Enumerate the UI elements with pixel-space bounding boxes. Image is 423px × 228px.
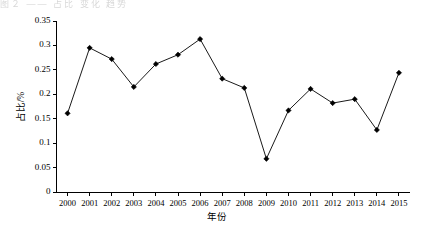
x-tick-label: 2000 [59,198,76,208]
data-point-marker [330,100,335,105]
x-tick-label: 2007 [214,198,231,208]
data-point-marker [65,111,70,116]
y-tick-label: 0.25 [35,64,51,74]
x-tick-label: 2014 [368,198,386,208]
x-axis-title: 年份 [207,211,227,222]
series-line-occupancy [68,39,399,159]
y-tick-label: 0.35 [35,15,51,25]
data-point-marker [220,76,225,81]
data-series-group [65,36,402,161]
y-tick-label: 0.1 [39,137,50,147]
x-tick-label: 2003 [125,198,142,208]
y-axis-tick-labels: 00.050.10.150.20.250.30.35 [35,15,51,196]
x-tick-label: 2005 [170,198,187,208]
x-tick-label: 2015 [390,198,407,208]
y-axis-ticks [53,21,57,192]
x-tick-label: 2008 [236,198,253,208]
data-point-marker [264,156,269,161]
x-tick-label: 2001 [81,198,98,208]
data-point-marker [87,45,92,50]
y-axis-title: 占比/% [15,92,26,123]
y-tick-label: 0.15 [35,113,51,123]
y-axis-group: 00.050.10.150.20.250.30.35 占比/% [15,15,57,196]
x-tick-label: 2009 [258,198,275,208]
data-point-marker [396,70,401,75]
series-markers [65,36,402,161]
y-tick-label: 0.05 [35,162,51,172]
x-tick-label: 2010 [280,198,297,208]
line-chart-canvas: 00.050.10.150.20.250.30.35 占比/% 20002001… [0,0,423,228]
x-axis-group: 2000200120022003200420052006200720082009… [57,192,411,222]
x-axis-tick-labels: 2000200120022003200420052006200720082009… [59,198,407,208]
x-tick-label: 2002 [103,198,120,208]
x-tick-label: 2013 [346,198,363,208]
y-tick-label: 0.3 [39,39,51,49]
data-point-marker [242,85,247,90]
chart-figure: 图２ —— 占比 变化 趋势 00.050.10.150.20.250.30.3… [0,0,423,228]
y-tick-label: 0 [46,186,51,196]
x-tick-label: 2012 [324,198,341,208]
y-tick-label: 0.2 [39,88,50,98]
x-tick-label: 2006 [192,198,209,208]
x-tick-label: 2004 [147,198,165,208]
x-tick-label: 2011 [302,198,319,208]
